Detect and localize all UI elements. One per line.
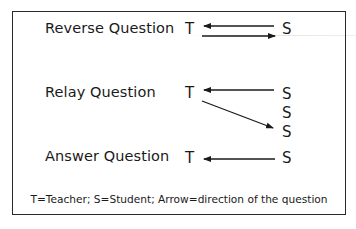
relay-student-node-2: S	[282, 106, 292, 121]
relay-student-node-1: S	[282, 87, 292, 102]
answer-student-node: S	[282, 151, 292, 166]
relay-teacher-node: T	[185, 86, 194, 101]
answer-teacher-node: T	[185, 151, 194, 166]
relay-question-label: Relay Question	[45, 84, 156, 100]
answer-question-label: Answer Question	[45, 148, 169, 164]
relay-student-node-3: S	[282, 125, 292, 140]
legend-caption: T=Teacher; S=Student; Arrow=direction of…	[12, 193, 346, 205]
reverse-student-node: S	[282, 22, 292, 37]
diagram-frame	[12, 11, 346, 215]
reverse-teacher-node: T	[185, 22, 194, 37]
reverse-question-label: Reverse Question	[45, 20, 174, 36]
